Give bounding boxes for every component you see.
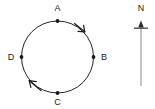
orbit-diagram-figure: A B C D N bbox=[0, 0, 155, 109]
point-label-a: A bbox=[54, 3, 60, 13]
north-label: N bbox=[138, 3, 145, 13]
point-label-c: C bbox=[54, 97, 61, 107]
point-marker-c bbox=[56, 91, 60, 95]
point-marker-d bbox=[20, 55, 24, 59]
diagram-canvas: A B C D N bbox=[0, 0, 155, 109]
arrow-lower-left-icon bbox=[29, 81, 41, 91]
north-compass-icon bbox=[134, 21, 148, 87]
point-marker-b bbox=[92, 55, 96, 59]
point-marker-a bbox=[56, 19, 60, 23]
arrow-upper-right-icon bbox=[75, 24, 85, 32]
point-label-d: D bbox=[8, 52, 15, 62]
point-label-b: B bbox=[101, 52, 107, 62]
